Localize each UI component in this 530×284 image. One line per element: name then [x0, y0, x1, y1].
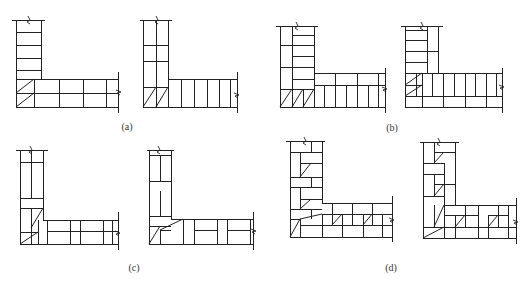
wall-corner-diagram — [0, 0, 530, 284]
panel-c-course-1 — [16, 146, 120, 250]
panel-d-course-2 — [420, 138, 518, 244]
break-mark-icon — [499, 85, 504, 90]
caption-b: (b) — [386, 122, 398, 133]
break-mark-icon — [382, 87, 387, 92]
panel-d-course-1 — [286, 137, 394, 242]
break-mark-icon — [513, 220, 518, 225]
caption-a: (a) — [121, 121, 132, 132]
panel-c-course-2 — [147, 146, 256, 250]
break-mark-icon — [389, 218, 394, 223]
caption-d: (d) — [385, 262, 397, 273]
panel-b-course-1 — [276, 22, 387, 113]
panel-a-course-1 — [12, 16, 121, 113]
panel-a-course-2 — [140, 16, 239, 113]
break-mark-icon — [234, 93, 239, 98]
break-mark-icon — [115, 231, 120, 236]
caption-c: (c) — [128, 262, 139, 273]
panel-b-course-2 — [401, 22, 504, 113]
break-mark-icon — [251, 229, 256, 234]
